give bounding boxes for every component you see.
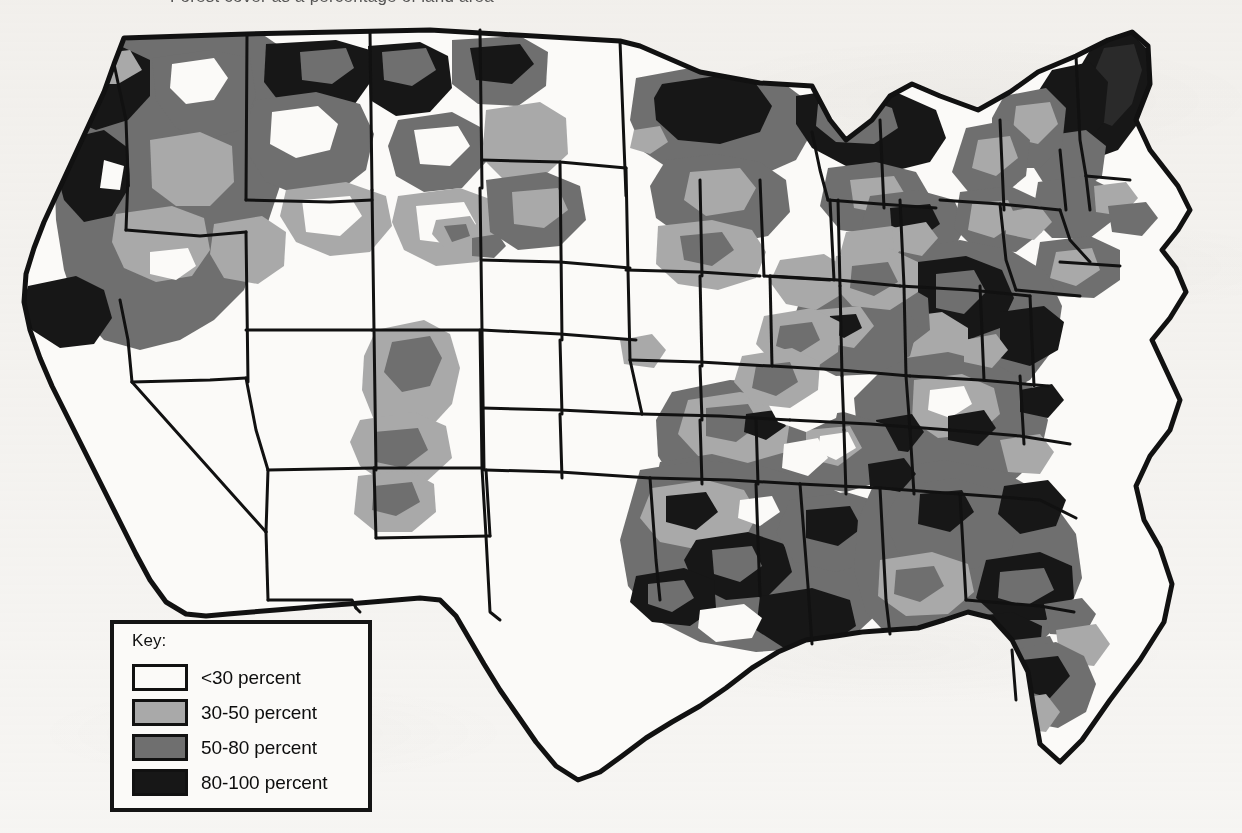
legend-swatch-80-100 bbox=[132, 769, 188, 796]
map-legend: Key: <30 percent 30-50 percent 50-80 per… bbox=[110, 620, 372, 812]
region-northern-rockies bbox=[246, 36, 586, 266]
legend-label-50-80: 50-80 percent bbox=[201, 737, 317, 759]
legend-item-80-100: 80-100 percent bbox=[132, 765, 362, 800]
legend-label-under-30: <30 percent bbox=[201, 667, 301, 689]
legend-swatch-50-80 bbox=[132, 734, 188, 761]
legend-title: Key: bbox=[132, 631, 166, 651]
legend-label-30-50: 30-50 percent bbox=[201, 702, 317, 724]
legend-item-30-50: 30-50 percent bbox=[132, 695, 362, 730]
legend-swatch-under-30 bbox=[132, 664, 188, 691]
legend-swatch-30-50 bbox=[132, 699, 188, 726]
legend-rows: <30 percent 30-50 percent 50-80 percent … bbox=[132, 660, 362, 800]
map-page: Forest cover as a percentage of land are… bbox=[0, 0, 1242, 833]
legend-item-50-80: 50-80 percent bbox=[132, 730, 362, 765]
legend-item-under-30: <30 percent bbox=[132, 660, 362, 695]
legend-label-80-100: 80-100 percent bbox=[201, 772, 327, 794]
